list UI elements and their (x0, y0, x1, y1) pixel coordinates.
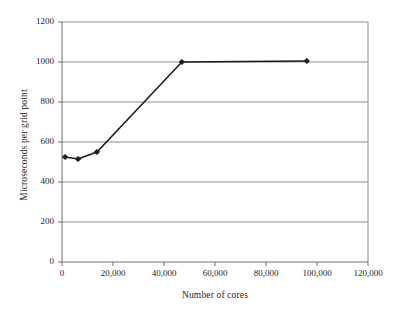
data-point-marker (75, 156, 80, 161)
chart-container: Microseconds per grid point Number of co… (0, 0, 402, 314)
x-tick-label: 120,000 (338, 268, 398, 278)
y-tick-label: 1000 (14, 56, 54, 66)
y-tick-label: 600 (14, 136, 54, 146)
y-tick-label: 400 (14, 176, 54, 186)
y-tick-label: 800 (14, 96, 54, 106)
y-tick-label: 200 (14, 216, 54, 226)
series-line (65, 61, 307, 159)
y-tick-label: 1200 (14, 16, 54, 26)
data-point-marker (304, 58, 309, 63)
data-point-marker (62, 154, 67, 159)
plot-area (0, 0, 402, 314)
y-tick-label: 0 (14, 256, 54, 266)
